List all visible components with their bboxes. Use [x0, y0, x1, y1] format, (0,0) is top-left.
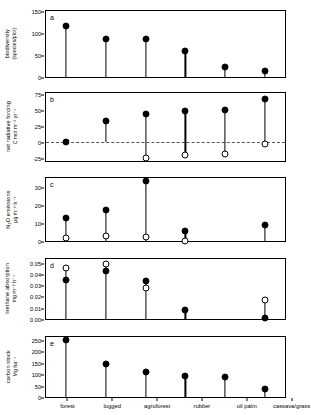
- data-point-b-lower-5: [262, 140, 269, 147]
- y-tick-mark-a-3: [41, 12, 44, 13]
- y-tick-mark-c-1: [41, 223, 44, 224]
- data-point-e-mean-0: [62, 337, 69, 344]
- panel-a: biodiversity(species/plot)050100150a: [0, 10, 292, 78]
- x-tick-mark-3: [201, 398, 202, 401]
- data-point-d-filled-1: [102, 268, 109, 275]
- x-tick-mark-4: [246, 398, 247, 401]
- y-tick-mark-a-2: [41, 34, 44, 35]
- data-point-a-mean-2: [142, 36, 149, 43]
- figure-panel-stack: biodiversity(species/plot)050100150anet …: [0, 0, 292, 415]
- data-point-b-upper-4: [222, 107, 229, 114]
- y-tick-mark-b-2: [41, 127, 44, 128]
- stem-a-0: [65, 26, 66, 77]
- stem-b-3: [185, 111, 186, 155]
- y-tick-mark-d-3: [41, 286, 44, 287]
- y-axis-title-line2-e: Mg ha⁻¹: [11, 351, 18, 384]
- x-axis-label-4: oil palm: [237, 403, 257, 409]
- data-point-b-lower-3: [182, 151, 189, 158]
- y-tick-label-b-0: -25: [33, 156, 41, 162]
- zero-reference-line-b: [46, 142, 285, 143]
- stem-c-2: [145, 181, 146, 241]
- panel-d: methane absorptionmg m⁻² h⁻¹0.000.010.02…: [0, 258, 292, 320]
- x-axis-label-1: logged: [104, 403, 121, 409]
- stem-e-2: [145, 372, 146, 397]
- y-tick-mark-d-0: [41, 320, 44, 321]
- y-tick-label-e-3: 150: [32, 361, 41, 367]
- x-tick-mark-1: [112, 398, 113, 401]
- x-axis-label-2: agroforest: [144, 403, 170, 409]
- data-point-c-upper-0: [62, 215, 69, 222]
- data-point-b-upper-1: [102, 118, 109, 125]
- x-axis-label-3: rubber: [194, 403, 211, 409]
- y-tick-mark-b-3: [41, 111, 44, 112]
- x-axis-label-5: cassava/grass: [273, 403, 292, 409]
- y-tick-mark-b-0: [41, 158, 44, 159]
- data-point-c-lower-1: [102, 232, 109, 239]
- data-point-b-upper-3: [182, 107, 189, 114]
- data-point-c-lower-3: [182, 237, 189, 244]
- x-axis-label-0: forest: [60, 403, 75, 409]
- y-axis-title-c: N₂O emissionsµg m⁻² h⁻¹: [0, 177, 22, 242]
- stem-e-1: [105, 364, 106, 397]
- stem-e-0: [65, 340, 66, 397]
- y-tick-label-a-2: 100: [32, 31, 41, 37]
- y-tick-label-a-3: 150: [32, 9, 41, 15]
- data-point-d-open-5: [262, 296, 269, 303]
- y-axis-ticks-b: -250255075: [20, 92, 44, 162]
- data-point-b-lower-4: [222, 150, 229, 157]
- y-axis-ticks-c: 0102030: [20, 177, 44, 242]
- data-point-b-upper-5: [262, 95, 269, 102]
- plot-area-e: e: [45, 336, 286, 398]
- stem-b-5: [264, 99, 265, 144]
- y-tick-label-d-0: 0.00: [30, 317, 41, 323]
- y-tick-mark-a-1: [41, 56, 44, 57]
- y-tick-mark-c-0: [41, 242, 44, 243]
- plot-area-a: a: [45, 10, 286, 78]
- x-tick-mark-0: [67, 398, 68, 401]
- panel-letter-e: e: [50, 340, 54, 347]
- y-axis-title-line1-c: N₂O emissions: [4, 190, 11, 228]
- y-axis-ticks-a: 050100150: [20, 10, 44, 78]
- y-tick-mark-e-0: [41, 398, 44, 399]
- y-tick-mark-d-4: [41, 274, 44, 275]
- data-point-c-lower-0: [62, 235, 69, 242]
- data-point-a-mean-4: [222, 64, 229, 71]
- y-tick-mark-e-4: [41, 352, 44, 353]
- data-point-b-upper-0: [62, 139, 69, 146]
- panel-letter-a: a: [50, 14, 54, 21]
- y-tick-label-d-2: 0.02: [30, 294, 41, 300]
- x-tick-mark-5: [291, 398, 292, 401]
- y-axis-title-line2-b: C mol m⁻² yr⁻¹: [11, 102, 18, 153]
- stem-a-2: [145, 39, 146, 77]
- data-point-c-upper-2: [142, 177, 149, 184]
- data-point-c-upper-3: [182, 228, 189, 235]
- panel-letter-b: b: [50, 96, 54, 103]
- y-tick-mark-e-1: [41, 386, 44, 387]
- data-point-e-mean-5: [262, 386, 269, 393]
- y-tick-mark-d-2: [41, 297, 44, 298]
- plot-area-b: b: [45, 92, 286, 162]
- data-point-a-mean-0: [62, 22, 69, 29]
- data-point-a-mean-5: [262, 68, 269, 75]
- y-tick-mark-e-2: [41, 375, 44, 376]
- y-tick-mark-e-3: [41, 363, 44, 364]
- y-tick-mark-a-0: [41, 78, 44, 79]
- stem-a-1: [105, 39, 106, 77]
- y-tick-label-d-3: 0.03: [30, 283, 41, 289]
- data-point-d-filled-5: [262, 315, 269, 322]
- y-tick-mark-d-1: [41, 308, 44, 309]
- y-axis-ticks-d: 0.000.010.020.030.040.05: [20, 258, 44, 320]
- data-point-e-mean-1: [102, 361, 109, 368]
- data-point-c-upper-5: [262, 222, 269, 229]
- data-point-c-upper-1: [102, 207, 109, 214]
- y-tick-label-e-5: 250: [32, 338, 41, 344]
- data-point-d-open-2: [142, 284, 149, 291]
- y-axis-title-line1-d: methane absorption: [4, 263, 11, 314]
- x-axis: forestloggedagroforestrubberoil palmcass…: [45, 398, 292, 415]
- data-point-a-mean-3: [182, 48, 189, 55]
- y-axis-title-line2-c: µg m⁻² h⁻¹: [11, 190, 18, 228]
- y-tick-label-d-4: 0.04: [30, 272, 41, 278]
- data-point-b-upper-2: [142, 111, 149, 118]
- y-tick-mark-b-1: [41, 142, 44, 143]
- panel-e: carbon stockMg ha⁻¹050100150200250e: [0, 336, 292, 398]
